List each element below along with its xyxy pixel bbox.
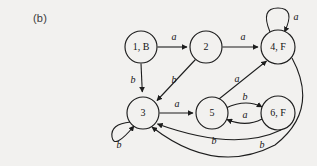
edge-label-a: a bbox=[294, 11, 299, 22]
edge-label-b: b bbox=[172, 74, 177, 85]
edge-label-b: b bbox=[212, 135, 217, 146]
state-transition-diagram: a a b b a a b bbox=[0, 0, 317, 166]
node-label-1B: 1, B bbox=[133, 41, 150, 52]
edge-label-b: b bbox=[243, 91, 248, 102]
edge-label-a: a bbox=[241, 31, 246, 42]
edge-3-to-5: a bbox=[160, 98, 194, 113]
edge-label-a: a bbox=[235, 73, 240, 84]
edge-1B-to-3: b bbox=[131, 64, 143, 93]
node-label-6F: 6, F bbox=[270, 107, 286, 118]
node-label-2: 2 bbox=[204, 41, 209, 52]
edge-6F-to-5: a bbox=[227, 109, 262, 123]
node-6F[interactable]: 6, F bbox=[261, 96, 295, 130]
edge-label-a: a bbox=[175, 98, 180, 109]
node-2[interactable]: 2 bbox=[190, 31, 222, 63]
node-label-3: 3 bbox=[141, 107, 146, 118]
node-label-4F: 4, F bbox=[270, 41, 286, 52]
edge-2-to-4F: a bbox=[223, 31, 259, 47]
edge-label-a: a bbox=[172, 31, 177, 42]
node-4F[interactable]: 4, F bbox=[261, 30, 295, 64]
edge-label-b: b bbox=[260, 139, 265, 150]
node-5[interactable]: 5 bbox=[196, 97, 228, 129]
edge-1B-to-2: a bbox=[158, 31, 188, 47]
node-3[interactable]: 3 bbox=[127, 97, 159, 129]
node-1B[interactable]: 1, B bbox=[125, 31, 157, 63]
self-loop-4F: a bbox=[266, 8, 298, 32]
edge-label-b: b bbox=[131, 74, 136, 85]
node-label-5: 5 bbox=[210, 107, 215, 118]
edge-label-b: b bbox=[117, 139, 122, 150]
edge-5-to-6F: b bbox=[226, 91, 262, 108]
edge-label-a: a bbox=[243, 109, 248, 120]
figure-panel: (b) a a b b a bbox=[0, 0, 317, 166]
self-loop-3: b bbox=[112, 122, 134, 150]
edge-2-to-3: b bbox=[157, 60, 196, 101]
